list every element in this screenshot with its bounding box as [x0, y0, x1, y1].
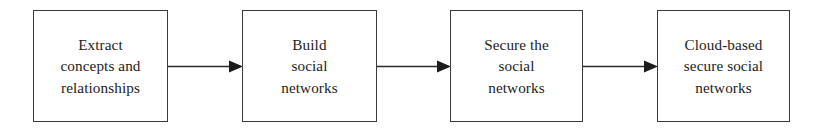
flow-node-secure-the-social-networks: Secure the social networks [450, 10, 583, 122]
flow-node-build-social-networks: Build social networks [242, 10, 377, 122]
flow-node-label: Extract concepts and relationships [60, 34, 140, 99]
flow-node-label: Build social networks [281, 34, 337, 99]
flow-node-extract-concepts-and-relationships: Extract concepts and relationships [33, 10, 168, 122]
flow-arrow-1 [168, 58, 243, 75]
flow-arrow-3 [583, 58, 658, 75]
flow-node-label: Secure the social networks [484, 34, 549, 99]
process-flow-diagram: Extract concepts and relationships Build… [0, 0, 829, 133]
flow-arrow-2 [377, 58, 451, 75]
flow-node-cloud-based-secure-social-networks: Cloud-based secure social networks [657, 10, 790, 122]
flow-node-label: Cloud-based secure social networks [684, 34, 763, 99]
